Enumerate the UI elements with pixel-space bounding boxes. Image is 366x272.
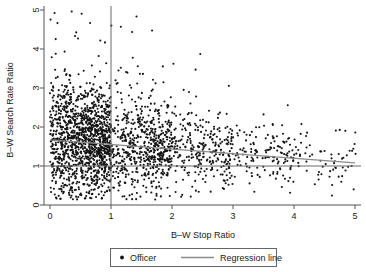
data-point — [63, 137, 65, 139]
data-point — [55, 133, 57, 135]
data-point — [189, 122, 191, 124]
data-point — [305, 146, 307, 148]
data-point — [60, 103, 62, 105]
data-point — [81, 146, 83, 148]
data-point — [140, 98, 142, 100]
data-point — [79, 128, 81, 130]
data-point — [74, 147, 76, 149]
data-point — [250, 143, 252, 145]
data-point — [77, 146, 79, 148]
data-point — [291, 149, 293, 151]
data-point — [198, 159, 200, 161]
data-point — [125, 127, 127, 129]
data-point — [106, 111, 108, 113]
data-point — [139, 157, 141, 159]
data-point — [82, 129, 84, 131]
data-point — [99, 178, 101, 180]
data-point — [114, 132, 116, 134]
data-point — [132, 147, 134, 149]
data-point — [98, 150, 100, 152]
data-point — [137, 141, 139, 143]
data-point — [338, 176, 340, 178]
data-point — [129, 132, 131, 134]
data-point — [66, 85, 68, 87]
data-point — [139, 147, 141, 149]
data-point — [100, 191, 102, 193]
data-point — [96, 126, 98, 128]
data-point — [87, 156, 89, 158]
data-point — [170, 160, 172, 162]
data-point — [66, 124, 68, 126]
data-point — [166, 123, 168, 125]
data-point — [191, 144, 193, 146]
data-point — [84, 107, 86, 109]
data-point — [213, 175, 215, 177]
data-point — [142, 73, 144, 75]
data-point — [173, 155, 175, 157]
data-point — [101, 185, 103, 187]
data-point — [139, 116, 141, 118]
data-point — [50, 187, 52, 189]
data-point — [68, 173, 70, 175]
data-point — [295, 153, 297, 155]
data-point — [202, 119, 204, 121]
data-point — [55, 106, 57, 108]
data-point — [50, 114, 52, 116]
data-point — [256, 150, 258, 152]
data-point — [212, 138, 214, 140]
data-point — [96, 131, 98, 133]
data-point — [99, 123, 101, 125]
data-point — [77, 132, 79, 134]
data-point — [115, 171, 117, 173]
data-point — [116, 83, 118, 85]
data-point — [57, 153, 59, 155]
data-point — [66, 185, 68, 187]
data-point — [84, 147, 86, 149]
data-point — [55, 53, 57, 55]
data-point — [226, 174, 228, 176]
data-point — [297, 162, 299, 164]
data-point — [59, 153, 61, 155]
data-point — [59, 177, 61, 179]
data-point — [195, 95, 197, 97]
data-point — [63, 177, 65, 179]
data-point — [94, 144, 96, 146]
data-point — [97, 118, 99, 120]
data-point — [60, 110, 62, 112]
data-point — [242, 149, 244, 151]
data-point — [151, 130, 153, 132]
data-point — [234, 176, 236, 178]
data-point — [68, 194, 70, 196]
data-point — [168, 120, 170, 122]
data-point — [162, 169, 164, 171]
data-point — [96, 175, 98, 177]
data-point — [52, 110, 54, 112]
data-point — [66, 178, 68, 180]
data-point — [112, 171, 114, 173]
data-point — [122, 140, 124, 142]
data-point — [131, 183, 133, 185]
data-point — [249, 134, 251, 136]
data-point — [135, 171, 137, 173]
data-point — [354, 132, 356, 134]
data-point — [87, 119, 89, 121]
data-point — [248, 166, 250, 168]
data-point — [89, 184, 91, 186]
data-point — [103, 100, 105, 102]
data-point — [55, 158, 57, 160]
data-point — [246, 170, 248, 172]
data-point — [103, 172, 105, 174]
data-point — [133, 157, 135, 159]
data-point — [100, 106, 102, 108]
data-point — [120, 92, 122, 94]
data-point — [101, 162, 103, 164]
data-point — [264, 169, 266, 171]
data-point — [52, 100, 54, 102]
data-point — [331, 194, 333, 196]
y-tick-label: 4 — [31, 46, 41, 51]
data-point — [89, 82, 91, 84]
data-point — [65, 114, 67, 116]
data-point — [221, 161, 223, 163]
data-point — [202, 152, 204, 154]
data-point — [195, 190, 197, 192]
